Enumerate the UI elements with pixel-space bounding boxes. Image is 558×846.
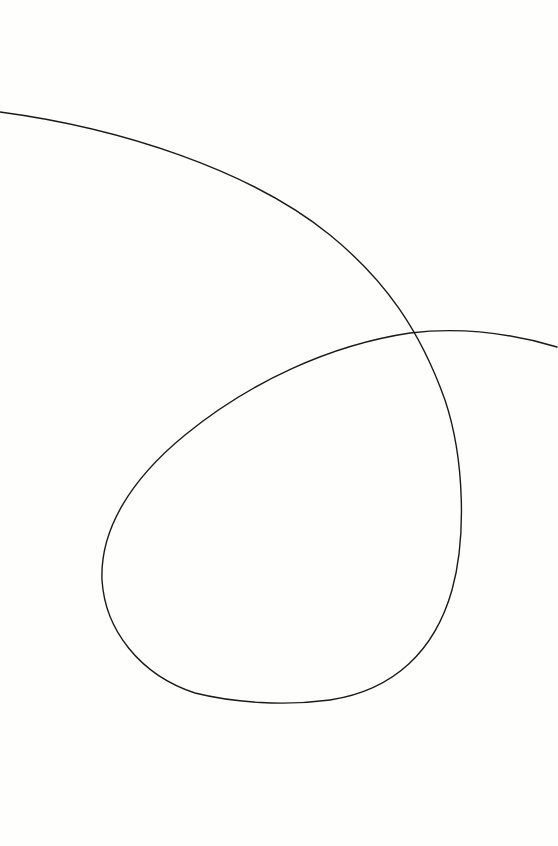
loop-line-drawing	[0, 0, 558, 846]
continuous-loop-line	[0, 112, 557, 703]
drawing-canvas	[0, 0, 558, 846]
